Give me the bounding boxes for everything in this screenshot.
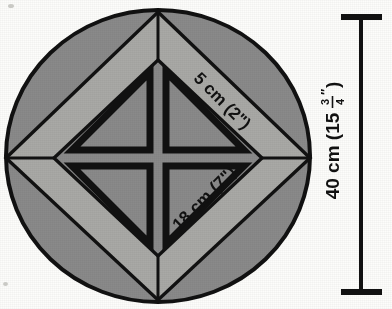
closing-paren: ) xyxy=(322,82,343,88)
figure-canvas: 5 cm (2") 18 cm (7") 40 cm (15 3 4 ″ ) xyxy=(0,0,392,309)
svg-text:40 cm (15: 40 cm (15 xyxy=(322,112,343,199)
diameter-dimension-line xyxy=(341,16,382,293)
diameter-fraction: 3 4 ″ ) xyxy=(318,82,346,108)
fraction-denominator: 4 xyxy=(334,98,346,105)
quilt-block-diagram: 5 cm (2") 18 cm (7") 40 cm (15 3 4 ″ ) xyxy=(0,0,392,309)
scan-speck xyxy=(3,282,8,286)
fraction-numerator: 3 xyxy=(319,99,331,105)
diameter-measurement-label: 40 cm (15 3 4 ″ ) xyxy=(318,82,346,200)
diameter-whole-text: 40 cm (15 xyxy=(322,112,343,199)
inch-mark: ″ xyxy=(318,89,333,95)
scan-speck xyxy=(8,4,14,8)
